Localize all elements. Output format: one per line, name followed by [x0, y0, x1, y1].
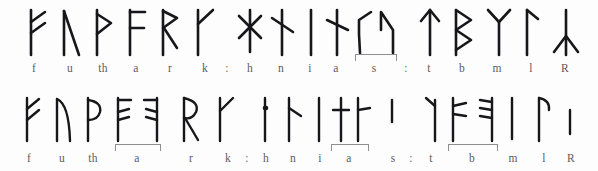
- label-t: t: [419, 62, 439, 75]
- bracket-b: [448, 144, 498, 151]
- label-a-2: a: [326, 62, 346, 75]
- rune-f-st: [22, 96, 44, 142]
- rune-h: [237, 8, 263, 56]
- rune-glyph-layer-top: [0, 0, 598, 60]
- label-m-st: m: [503, 152, 523, 165]
- label-k: k: [195, 62, 215, 75]
- label-h: h: [240, 62, 260, 75]
- rune-R: [552, 8, 580, 56]
- futhark-row-bottom: f u th a r k : h n i a s : t b m l R: [0, 85, 598, 171]
- bracket-a: [115, 144, 161, 151]
- rune-th-st: [84, 96, 106, 142]
- label-n: n: [271, 62, 291, 75]
- rune-b: [452, 8, 476, 56]
- rune-s-1: [356, 10, 378, 56]
- bracket-s: [355, 54, 397, 61]
- rune-r: [159, 8, 183, 56]
- rune-t-st: [422, 96, 444, 142]
- label-n-st: n: [283, 152, 303, 165]
- label-R-st: R: [561, 152, 581, 165]
- label-s: s: [364, 62, 384, 75]
- label-r-st: r: [181, 152, 201, 165]
- rune-s-2: [378, 10, 400, 56]
- rune-a-st-1: [114, 96, 136, 142]
- rune-a-st-3: [332, 96, 352, 142]
- label-separator-1: :: [218, 62, 236, 75]
- runic-figure: f u th a r k : h n i a s : t b m l R: [0, 0, 598, 171]
- label-f-st: f: [19, 152, 39, 165]
- label-separator-2: :: [397, 62, 415, 75]
- label-i: i: [300, 62, 320, 75]
- label-t-st: t: [421, 152, 441, 165]
- rune-a-ar: [326, 8, 350, 56]
- label-r: r: [160, 62, 180, 75]
- label-th: th: [93, 62, 113, 75]
- rune-n-st: [283, 96, 305, 142]
- label-l-st: l: [534, 152, 554, 165]
- rune-i: [304, 8, 320, 56]
- rune-r-st: [180, 96, 204, 142]
- label-i-st: i: [310, 152, 330, 165]
- rune-l: [522, 8, 544, 56]
- rune-a: [126, 8, 150, 56]
- label-R: R: [555, 62, 575, 75]
- rune-i-st: [313, 96, 327, 142]
- label-l: l: [521, 62, 541, 75]
- label-separator-2-st: :: [402, 152, 420, 165]
- label-a-st: a: [127, 152, 147, 165]
- label-k-st: k: [218, 152, 238, 165]
- label-u: u: [60, 62, 80, 75]
- rune-b-st-2: [475, 96, 497, 142]
- futhark-row-top: f u th a r k : h n i a s : t b m l R: [0, 0, 598, 85]
- rune-glyph-layer-bottom: [0, 85, 598, 145]
- rune-k: [194, 8, 218, 56]
- rune-s-st: [386, 96, 400, 142]
- rune-f: [26, 8, 50, 56]
- rune-k-st: [216, 96, 238, 142]
- rune-th: [93, 8, 117, 56]
- rune-m: [486, 8, 512, 56]
- label-th-st: th: [83, 152, 103, 165]
- rune-m-st: [506, 96, 520, 142]
- label-u-st: u: [52, 152, 72, 165]
- label-s-st: s: [383, 152, 403, 165]
- rune-a-st-4: [352, 96, 372, 142]
- label-h-st: h: [256, 152, 276, 165]
- rune-a-st-2: [140, 96, 162, 142]
- rune-u-st: [53, 96, 75, 142]
- label-m: m: [487, 62, 507, 75]
- rune-R-st: [564, 96, 578, 142]
- rune-h-st: [256, 96, 276, 142]
- rune-b-st-1: [449, 96, 471, 142]
- bracket-a-2: [331, 144, 369, 151]
- label-a-st-2: a: [339, 152, 359, 165]
- rune-t: [419, 8, 443, 56]
- rune-l-st: [534, 96, 556, 142]
- label-b: b: [452, 62, 472, 75]
- label-b-st: b: [462, 152, 482, 165]
- label-f: f: [24, 62, 44, 75]
- rune-n: [271, 8, 295, 56]
- label-separator-1-st: :: [238, 152, 256, 165]
- label-a: a: [126, 62, 146, 75]
- rune-u: [60, 8, 84, 56]
